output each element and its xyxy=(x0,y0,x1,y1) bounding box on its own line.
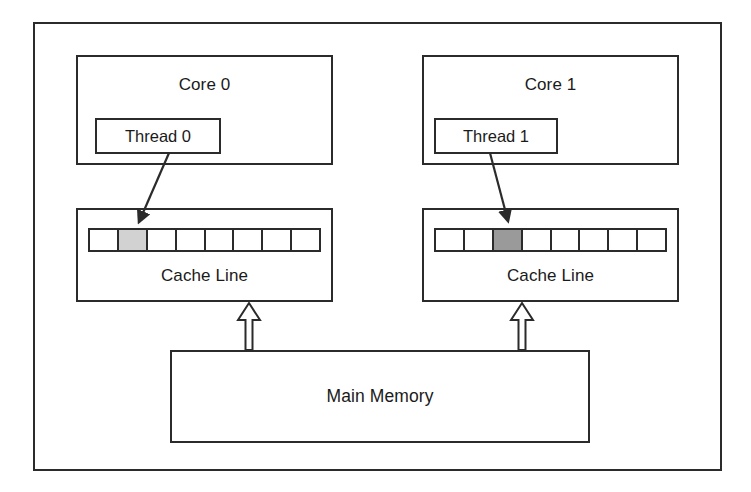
cache-line-0-cell-7 xyxy=(292,230,319,250)
cache-line-0-cell-3 xyxy=(177,230,206,250)
cache-line-1-cell-4 xyxy=(552,230,581,250)
cache-line-1-cell-5 xyxy=(580,230,609,250)
cache-line-1-cells xyxy=(434,228,667,252)
main-memory-box: Main Memory xyxy=(170,350,590,443)
core-0-box: Core 0 Thread 0 xyxy=(76,55,333,165)
cache-line-1-cell-6 xyxy=(609,230,638,250)
thread-1-label: Thread 1 xyxy=(463,127,529,145)
cache-line-0-cell-2 xyxy=(148,230,177,250)
cache-line-0-box: Cache Line xyxy=(76,208,333,302)
cache-line-0-cells xyxy=(88,228,321,252)
thread-1-box: Thread 1 xyxy=(434,118,558,154)
core-1-label: Core 1 xyxy=(424,75,677,95)
thread-0-label: Thread 0 xyxy=(125,127,191,145)
cache-line-0-cell-0 xyxy=(90,230,119,250)
cache-line-1-cell-0 xyxy=(436,230,465,250)
core-0-label: Core 0 xyxy=(78,75,331,95)
cache-line-1-cell-2-highlighted xyxy=(494,230,523,250)
diagram-root: Core 0 Thread 0 Core 1 Thread 1 Cache Li… xyxy=(0,0,751,492)
main-memory-label: Main Memory xyxy=(172,386,588,406)
cache-line-1-box: Cache Line xyxy=(422,208,679,302)
thread-0-box: Thread 0 xyxy=(95,118,221,154)
cache-line-0-cell-5 xyxy=(234,230,263,250)
cache-line-0-cell-1-highlighted xyxy=(119,230,148,250)
cache-line-0-cell-6 xyxy=(263,230,292,250)
cache-line-1-label: Cache Line xyxy=(424,266,677,286)
cache-line-0-cell-4 xyxy=(206,230,235,250)
cache-line-1-cell-3 xyxy=(523,230,552,250)
cache-line-0-label: Cache Line xyxy=(78,266,331,286)
core-1-box: Core 1 Thread 1 xyxy=(422,55,679,165)
cache-line-1-cell-7 xyxy=(638,230,665,250)
cache-line-1-cell-1 xyxy=(465,230,494,250)
